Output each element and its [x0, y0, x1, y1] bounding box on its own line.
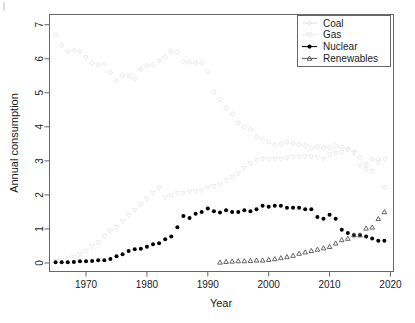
data-point [114, 254, 118, 258]
data-point [102, 258, 106, 262]
y-tick-label: 6 [34, 56, 45, 62]
data-point [315, 215, 319, 219]
data-point [84, 259, 88, 263]
data-point [60, 260, 64, 264]
y-axis-title: Annual consumption [8, 93, 20, 193]
data-point [108, 257, 112, 261]
data-point [181, 214, 185, 218]
legend-label: Renewables [323, 53, 378, 64]
data-point [212, 209, 216, 213]
data-point [188, 216, 192, 220]
data-point [194, 212, 198, 216]
data-point [121, 252, 125, 256]
data-point [255, 207, 259, 211]
data-point [267, 205, 271, 209]
data-point [72, 260, 76, 264]
legend-label: Gas [323, 29, 341, 40]
data-point [321, 217, 325, 221]
data-point [346, 231, 350, 235]
data-point [230, 210, 234, 214]
data-point [242, 208, 246, 212]
data-point [376, 239, 380, 243]
y-tick-label: 2 [34, 192, 45, 198]
legend-marker-icon [307, 45, 311, 49]
scan-artifact [3, 2, 5, 11]
energy-consumption-scatter-plot: 01234567 197019801990200020102020 Annual… [0, 0, 415, 323]
data-point [145, 245, 149, 249]
data-point [218, 211, 222, 215]
x-tick-label: 1970 [75, 279, 98, 290]
data-point [248, 209, 252, 213]
y-tick-label: 0 [34, 260, 45, 266]
data-point [90, 259, 94, 263]
y-tick-label: 4 [34, 124, 45, 130]
data-point [370, 236, 374, 240]
chart-legend: CoalGasNuclearRenewables [298, 16, 391, 67]
data-point [273, 204, 277, 208]
data-point [285, 206, 289, 210]
y-tick-label: 7 [34, 21, 45, 27]
data-point [139, 247, 143, 251]
data-point [364, 234, 368, 238]
chart-figure: 01234567 197019801990200020102020 Annual… [0, 0, 415, 323]
y-tick-label: 1 [34, 226, 45, 232]
data-point [127, 249, 131, 253]
data-point [163, 237, 167, 241]
data-point [334, 217, 338, 221]
data-point [224, 208, 228, 212]
data-point [309, 207, 313, 211]
data-point [297, 206, 301, 210]
data-point [78, 259, 82, 263]
data-point [261, 204, 265, 208]
data-point [340, 228, 344, 232]
data-point [175, 225, 179, 229]
data-point [382, 239, 386, 243]
legend-label: Coal [323, 18, 344, 29]
data-point [206, 207, 210, 211]
data-point [279, 204, 283, 208]
x-tick-label: 2000 [258, 279, 281, 290]
data-point [66, 260, 70, 264]
data-point [96, 258, 100, 262]
x-tick-label: 1990 [197, 279, 220, 290]
data-point [133, 247, 137, 251]
data-point [291, 206, 295, 210]
data-point [236, 210, 240, 214]
legend-label: Nuclear [323, 41, 358, 52]
data-point [200, 210, 204, 214]
x-tick-label: 2020 [379, 279, 402, 290]
data-point [151, 242, 155, 246]
data-point [157, 241, 161, 245]
x-tick-label: 2010 [318, 279, 341, 290]
x-tick-label: 1980 [136, 279, 159, 290]
y-tick-label: 3 [34, 158, 45, 164]
data-point [169, 234, 173, 238]
data-point [328, 213, 332, 217]
x-axis-title: Year [210, 297, 233, 309]
data-point [303, 207, 307, 211]
data-point [54, 260, 58, 264]
y-tick-label: 5 [34, 90, 45, 96]
